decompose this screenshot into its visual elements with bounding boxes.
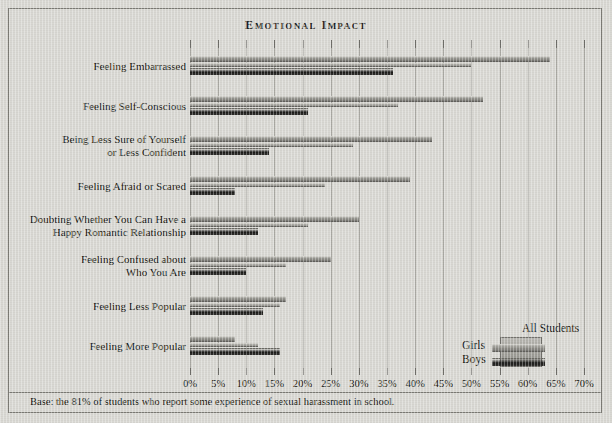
- axis-tick-top: [246, 40, 247, 48]
- axis-tick-top: [303, 40, 304, 48]
- category-label: Feeling Confused aboutWho You Are: [10, 253, 186, 278]
- axis-tick-top: [359, 40, 360, 48]
- footnote-divider: [9, 392, 601, 393]
- x-axis-tick-label: 70%: [564, 378, 604, 389]
- gridline: [556, 48, 557, 368]
- category-label: Feeling Afraid or Scared: [10, 180, 186, 193]
- gridline: [584, 48, 585, 368]
- bar-all-students: [190, 303, 280, 307]
- axis-tick-bottom: [415, 368, 416, 375]
- page-title: Emotional Impact: [0, 18, 612, 33]
- bar-all-students: [190, 223, 308, 227]
- axis-tick-bottom: [246, 368, 247, 375]
- legend-item-boys: Boys: [462, 353, 486, 365]
- axis-tick-top: [500, 40, 501, 48]
- legend-label-girls: Girls: [462, 339, 485, 351]
- footnote-text: Base: the 81% of students who report som…: [30, 396, 395, 407]
- bar-boys: [190, 148, 269, 155]
- bar-girls: [190, 336, 235, 342]
- axis-tick-top: [331, 40, 332, 48]
- bar-girls: [190, 176, 410, 182]
- gridline: [528, 48, 529, 368]
- category-label: Being Less Sure of Yourselfor Less Confi…: [10, 133, 186, 158]
- bar-boys: [190, 268, 246, 275]
- axis-tick-bottom: [331, 368, 332, 375]
- bar-all-students: [190, 103, 398, 107]
- bar-boys: [190, 68, 393, 75]
- axis-tick-bottom: [218, 368, 219, 375]
- category-label: Feeling More Popular: [10, 340, 186, 353]
- plot-area: 0%5%10%15%20%25%30%35%40%45%50%55%60%65%…: [190, 48, 584, 368]
- bar-boys: [190, 348, 280, 355]
- axis-tick-bottom: [274, 368, 275, 375]
- gridline: [500, 48, 501, 368]
- bar-boys: [190, 108, 308, 115]
- axis-tick-top: [415, 40, 416, 48]
- axis-tick-bottom: [556, 368, 557, 375]
- bar-boys: [190, 228, 258, 235]
- legend-swatch-boys: [492, 358, 545, 366]
- axis-tick-bottom: [500, 368, 501, 375]
- axis-tick-top: [556, 40, 557, 48]
- category-label: Doubting Whether You Can Have aHappy Rom…: [10, 213, 186, 238]
- axis-tick-top: [274, 40, 275, 48]
- legend-label-all-students: All Students: [522, 322, 579, 334]
- category-label-line: Who You Are: [10, 266, 186, 279]
- axis-tick-bottom: [471, 368, 472, 375]
- axis-tick-bottom: [584, 368, 585, 375]
- bar-girls: [190, 296, 286, 302]
- category-label-line: Doubting Whether You Can Have a: [10, 213, 186, 226]
- axis-tick-top: [387, 40, 388, 48]
- category-axis-labels: Feeling EmbarrassedFeeling Self-Consciou…: [10, 48, 186, 368]
- category-label: Feeling Embarrassed: [10, 60, 186, 73]
- bar-girls: [190, 216, 359, 222]
- chart-page: Emotional Impact Feeling EmbarrassedFeel…: [0, 0, 612, 423]
- bar-girls: [190, 96, 483, 102]
- category-label-line: Feeling Self-Conscious: [10, 100, 186, 113]
- category-label-line: Feeling Confused about: [10, 253, 186, 266]
- category-label-line: Feeling Less Popular: [10, 300, 186, 313]
- bar-girls: [190, 136, 432, 142]
- category-label-line: Feeling More Popular: [10, 340, 186, 353]
- category-label-line: Happy Romantic Relationship: [10, 226, 186, 239]
- bar-boys: [190, 308, 263, 315]
- legend-item-girls: Girls: [462, 339, 485, 351]
- axis-tick-top: [584, 40, 585, 48]
- legend-swatch-girls: [492, 344, 545, 352]
- bar-all-students: [190, 343, 258, 347]
- axis-tick-bottom: [190, 368, 191, 375]
- axis-tick-top: [528, 40, 529, 48]
- category-label-line: Being Less Sure of Yourself: [10, 133, 186, 146]
- axis-tick-bottom: [443, 368, 444, 375]
- category-label: Feeling Less Popular: [10, 300, 186, 313]
- axis-tick-top: [443, 40, 444, 48]
- axis-tick-bottom: [387, 368, 388, 375]
- axis-tick-bottom: [528, 368, 529, 375]
- bar-all-students: [190, 143, 353, 147]
- bar-all-students: [190, 63, 471, 67]
- axis-tick-top: [218, 40, 219, 48]
- category-label: Feeling Self-Conscious: [10, 100, 186, 113]
- bar-all-students: [190, 183, 325, 187]
- category-label-line: Feeling Afraid or Scared: [10, 180, 186, 193]
- axis-tick-bottom: [303, 368, 304, 375]
- bar-all-students: [190, 263, 286, 267]
- category-label-line: or Less Confident: [10, 146, 186, 159]
- category-label-line: Feeling Embarrassed: [10, 60, 186, 73]
- axis-tick-top: [190, 40, 191, 48]
- axis-tick-top: [471, 40, 472, 48]
- bar-boys: [190, 188, 235, 195]
- legend-label-boys: Boys: [462, 353, 486, 365]
- axis-tick-bottom: [359, 368, 360, 375]
- bar-girls: [190, 256, 331, 262]
- bar-girls: [190, 56, 550, 62]
